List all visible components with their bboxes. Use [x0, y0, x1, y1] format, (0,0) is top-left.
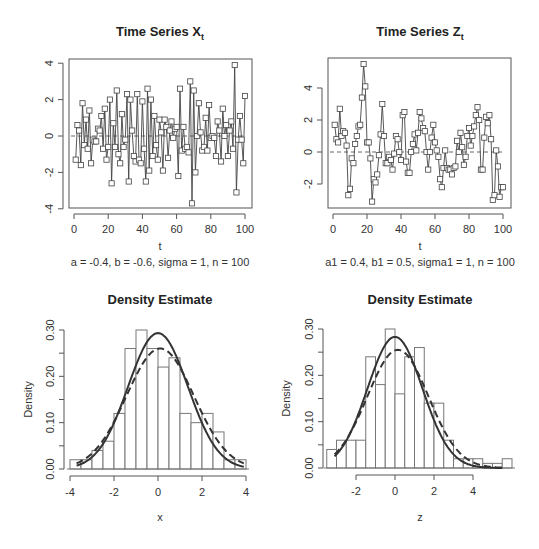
y-tick-label: 0.20 — [303, 365, 315, 386]
histogram-bar — [395, 394, 405, 468]
x-axis-label: z — [417, 511, 423, 523]
data-point-marker — [402, 109, 407, 114]
data-point-marker — [475, 105, 480, 110]
x-tick-label: 0 — [71, 223, 77, 235]
data-point-marker — [100, 146, 105, 151]
data-point-marker — [102, 106, 107, 111]
y-tick-label: 4 — [302, 85, 314, 91]
data-point-marker — [494, 148, 499, 153]
data-point-marker — [206, 102, 211, 107]
histogram-bar — [180, 413, 191, 469]
data-point-marker — [470, 133, 475, 138]
x-axis-label: t — [158, 240, 161, 252]
data-point-marker — [203, 115, 208, 120]
data-point-marker — [375, 172, 380, 177]
data-point-marker — [75, 122, 80, 127]
y-tick-label: -4 — [43, 204, 55, 214]
x-tick-label: -2 — [109, 486, 119, 498]
data-point-marker — [337, 106, 342, 111]
x-tick-label: 40 — [395, 223, 407, 235]
data-point-marker — [414, 148, 419, 153]
y-tick-label: 0.00 — [44, 458, 56, 479]
y-tick-label: 2 — [302, 117, 314, 123]
data-point-marker — [184, 144, 189, 149]
y-tick-label: 0.30 — [44, 319, 56, 340]
data-point-marker — [472, 124, 477, 129]
data-point-marker — [78, 163, 83, 168]
data-point-marker — [176, 173, 181, 178]
data-point-marker — [147, 168, 152, 173]
data-point-marker — [205, 148, 210, 153]
data-point-marker — [106, 144, 111, 149]
x-tick-label: -2 — [351, 485, 361, 497]
data-point-marker — [198, 130, 203, 135]
x-tick-label: 60 — [170, 223, 182, 235]
histogram-bar — [385, 329, 395, 468]
x-tick-label: 60 — [429, 223, 441, 235]
data-point-marker — [332, 122, 337, 127]
data-point-marker — [359, 95, 364, 100]
y-tick-label: 0 — [43, 133, 55, 139]
x-tick-label: 80 — [205, 223, 217, 235]
histogram-bar — [114, 413, 125, 469]
histogram-bar — [346, 440, 356, 468]
data-point-marker — [398, 157, 403, 162]
data-point-marker — [410, 141, 415, 146]
data-point-marker — [169, 119, 174, 124]
data-point-marker — [220, 106, 225, 111]
data-point-marker — [395, 137, 400, 142]
data-point-marker — [89, 161, 94, 166]
histogram-bar — [103, 441, 114, 469]
data-point-marker — [419, 116, 424, 121]
data-point-marker — [487, 113, 492, 118]
data-point-marker — [388, 157, 393, 162]
data-point-marker — [373, 180, 378, 185]
data-point-marker — [112, 144, 117, 149]
data-point-marker — [422, 129, 427, 134]
time-series-z-chart: Time Series Zt020406080100-2024ta1 = 0.4… — [270, 0, 539, 280]
chart-title: Time Series Xt — [116, 24, 204, 42]
data-point-marker — [409, 149, 414, 154]
density-z-panel: Density Estimate-20240.000.100.200.30Den… — [270, 280, 539, 549]
data-point-marker — [191, 88, 196, 93]
data-point-marker — [128, 97, 133, 102]
data-point-marker — [449, 172, 454, 177]
data-point-marker — [417, 109, 422, 114]
data-point-marker — [107, 97, 112, 102]
data-point-marker — [234, 190, 239, 195]
data-point-marker — [77, 128, 82, 133]
data-point-marker — [436, 154, 441, 159]
data-point-marker — [368, 156, 373, 161]
data-point-marker — [138, 161, 143, 166]
data-point-marker — [361, 61, 366, 66]
data-point-marker — [407, 170, 412, 175]
x-tick-label: 20 — [102, 223, 114, 235]
data-point-marker — [443, 148, 448, 153]
data-point-marker — [167, 128, 172, 133]
y-tick-label: 0.00 — [303, 457, 315, 478]
data-point-marker — [439, 185, 444, 190]
y-tick-label: 0.10 — [44, 412, 56, 433]
x-tick-label: 0 — [330, 223, 336, 235]
data-point-marker — [142, 146, 147, 151]
x-tick-label: 20 — [361, 223, 373, 235]
x-tick-label: -4 — [65, 486, 75, 498]
histogram-bar — [424, 403, 434, 468]
data-point-marker — [392, 151, 397, 156]
data-point-marker — [140, 99, 145, 104]
y-axis-label: Density — [280, 380, 292, 417]
data-point-marker — [212, 135, 217, 140]
data-point-marker — [237, 113, 242, 118]
data-point-marker — [434, 148, 439, 153]
y-tick-label: 2 — [43, 97, 55, 103]
histogram-bar — [502, 459, 512, 468]
chart-title: Density Estimate — [108, 292, 213, 307]
data-point-marker — [230, 146, 235, 151]
data-point-marker — [193, 170, 198, 175]
data-point-marker — [153, 143, 158, 148]
data-point-marker — [99, 113, 104, 118]
density-x-panel: Density Estimate-4-20240.000.100.200.30D… — [0, 280, 270, 549]
data-point-marker — [148, 97, 153, 102]
y-tick-label: 0.30 — [303, 318, 315, 339]
data-point-marker — [346, 193, 351, 198]
